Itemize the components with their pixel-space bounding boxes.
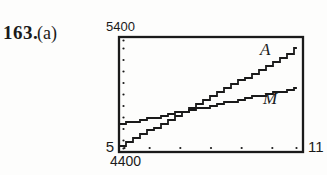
x-tick-dot bbox=[149, 147, 151, 149]
y-tick-dot bbox=[122, 70, 124, 72]
x-tick-dot bbox=[295, 147, 297, 149]
y-tick-dot bbox=[122, 128, 124, 130]
y-tick-dot bbox=[122, 105, 124, 107]
y-tick-dot bbox=[122, 93, 124, 95]
y-tick-dot bbox=[122, 59, 124, 61]
x-tick-dot bbox=[123, 147, 125, 149]
textbook-answer-figure: 163. (a) 5400 5 4400 11 A M bbox=[0, 0, 327, 175]
calculator-plot-canvas bbox=[0, 0, 327, 175]
x-tick-dot bbox=[179, 147, 181, 149]
x-tick-dot bbox=[241, 147, 243, 149]
ymin-label: 4400 bbox=[110, 154, 141, 169]
y-tick-dot bbox=[122, 47, 124, 49]
series-label-A: A bbox=[260, 41, 270, 58]
ymax-label: 5400 bbox=[106, 20, 135, 34]
xmax-label: 11 bbox=[308, 139, 324, 156]
x-tick-dot bbox=[210, 147, 212, 149]
y-tick-dot bbox=[122, 139, 124, 141]
y-tick-dot bbox=[122, 39, 124, 41]
y-tick-dot bbox=[122, 82, 124, 84]
series-label-M: M bbox=[263, 90, 277, 107]
y-tick-dot bbox=[122, 116, 124, 118]
x-tick-dot bbox=[271, 147, 273, 149]
